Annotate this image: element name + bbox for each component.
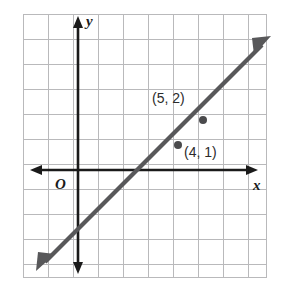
graph-canvas	[0, 0, 292, 295]
y-axis-down-arrowhead	[73, 262, 83, 274]
line-upper-right-arrowhead	[252, 36, 271, 55]
x-axis-left-arrowhead	[30, 165, 42, 175]
point-label-5-2: (5, 2)	[152, 91, 185, 105]
grid-vertical-lines	[24, 14, 267, 277]
data-point-marker	[174, 141, 182, 149]
point-label-4-1: (4, 1)	[184, 145, 217, 159]
grid-horizontal-lines	[23, 15, 267, 278]
plotted-line	[36, 36, 271, 271]
line-lower-left-arrowhead	[36, 252, 55, 271]
y-axis-up-arrowhead	[73, 16, 83, 28]
coordinate-plane-figure: y x O (5, 2) (4, 1)	[0, 0, 292, 295]
y-axis-label: y	[86, 14, 93, 29]
x-axis-label: x	[253, 178, 261, 193]
x-axis-right-arrowhead	[246, 165, 258, 175]
origin-label: O	[55, 177, 66, 192]
data-point-marker	[199, 116, 207, 124]
